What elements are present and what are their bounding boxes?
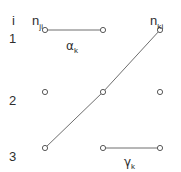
gamma-subscript: k: [131, 162, 135, 171]
node-r2c1: [42, 89, 47, 94]
column-header-n-ki: nki: [150, 14, 163, 31]
index-axis-label: i: [12, 14, 15, 27]
alpha-symbol: α: [66, 39, 74, 53]
alpha-subscript: k: [74, 46, 78, 55]
node-r3c3: [157, 145, 162, 150]
node-r2c3: [157, 89, 162, 94]
node-r3c1: [42, 145, 47, 150]
row-label-1: 1: [9, 32, 16, 45]
column-header-n-ji-subscript: ji: [39, 22, 43, 31]
edge-diagonal-upper: [103, 30, 160, 92]
row-label-2: 2: [9, 94, 16, 107]
node-r3c2: [100, 145, 105, 150]
edge-diagonal-lower: [45, 92, 103, 148]
edge-label-alpha-k: αk: [66, 40, 78, 55]
nodes-group: [42, 27, 162, 150]
column-header-n-ki-subscript: ki: [157, 22, 163, 31]
figure-canvas: i nji nki 1 2 3 αk γk: [0, 0, 181, 172]
node-r1c2: [100, 27, 105, 32]
edge-label-gamma-k: γk: [124, 156, 135, 171]
node-r2c2: [100, 89, 105, 94]
row-label-3: 3: [9, 150, 16, 163]
column-header-n-ji: nji: [32, 14, 43, 31]
